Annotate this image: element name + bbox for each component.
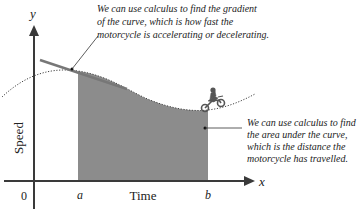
area-under-curve (78, 71, 208, 181)
x-axis-arrow-icon (244, 176, 255, 186)
x-axis-label: x (258, 174, 265, 189)
motorcycle-rider-icon (202, 87, 225, 111)
area-annotation-line-4: motorcycle has travelled. (247, 153, 348, 164)
area-annotation-line-3: which is the distance the (247, 141, 346, 152)
gradient-annotation-line-1: We can use calculus to find the gradient (97, 3, 257, 14)
gradient-leader-line (72, 36, 98, 69)
time-axis-title: Time (130, 188, 157, 203)
y-axis-label: y (28, 6, 36, 21)
b-label: b (205, 188, 211, 202)
gradient-annotation-line-3: motorcycle is accelerating or decelerati… (97, 29, 269, 40)
gradient-annotation-line-2: of the curve, which is how fast the (97, 16, 234, 27)
area-annotation-line-1: We can use calculus to find (247, 117, 357, 128)
a-label: a (77, 188, 83, 202)
speed-time-diagram: y x Speed Time 0 a b We can use calculus… (0, 0, 363, 209)
gradient-annotation: We can use calculus to find the gradient… (97, 3, 269, 40)
y-axis-arrow-icon (29, 25, 39, 36)
area-annotation: We can use calculus to find the area und… (247, 117, 357, 164)
area-annotation-line-2: the area under the curve, (247, 129, 347, 140)
origin-label: 0 (21, 189, 27, 203)
speed-axis-title: Speed (11, 122, 26, 154)
